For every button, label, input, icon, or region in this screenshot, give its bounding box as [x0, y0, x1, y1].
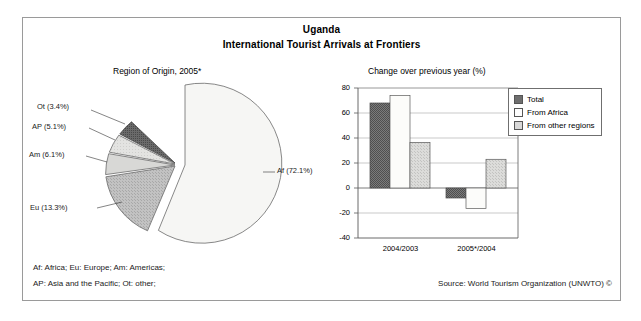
pie-label-ap: AP (5.1%): [32, 122, 66, 131]
legend-item-total: Total: [514, 93, 595, 105]
pie-leader-ap: [89, 128, 115, 140]
pie-chart: Ot (3.4%) AP (5.1%) Am (6.1%) Eu (13.3%)…: [27, 80, 327, 250]
xtick-label-2005-2004: 2005*/2004: [444, 244, 509, 253]
pie-chart-svg: [27, 80, 327, 250]
pie-leader-am: [86, 156, 107, 162]
legend-label-from-other-regions: From other regions: [527, 121, 595, 130]
legend-label-from-africa: From Africa: [527, 108, 568, 117]
legend-swatch-from-africa: [514, 108, 523, 117]
bar-chart-legend: Total From Africa From other regions: [508, 88, 602, 136]
legend-swatch-total: [514, 95, 523, 104]
ytick-label-40: 40: [328, 133, 350, 142]
page-title: Uganda: [23, 24, 620, 35]
figure-frame: Uganda International Tourist Arrivals at…: [22, 17, 621, 301]
pie-label-am: Am (6.1%): [29, 150, 64, 159]
ytick-label-60: 60: [328, 108, 350, 117]
pie-label-eu: Eu (13.3%): [30, 203, 68, 212]
legend-swatch-from-other-regions: [514, 121, 523, 130]
ytick-label-20: 20: [328, 158, 350, 167]
footnote-abbreviations-line2: AP: Asia and the Pacific; Ot: other;: [33, 279, 156, 288]
source-attribution: Source: World Tourism Organization (UNWT…: [438, 279, 612, 288]
pie-chart-caption: Region of Origin, 2005*: [113, 66, 201, 76]
legend-item-from-africa: From Africa: [514, 106, 595, 118]
legend-item-from-other-regions: From other regions: [514, 119, 595, 131]
page-subtitle: International Tourist Arrivals at Fronti…: [23, 39, 620, 50]
pie-slice-af: [158, 83, 281, 243]
bar-2005-2004-from-other-regions: [486, 159, 506, 188]
bar-2004-2003-total: [370, 103, 390, 188]
pie-label-af: Af (72.1%): [277, 166, 312, 175]
ytick-label-80: 80: [328, 83, 350, 92]
bar-2004-2003-from-africa: [390, 96, 410, 189]
ytick-label-0: 0: [328, 183, 350, 192]
bar-2004-2003-from-other-regions: [410, 142, 430, 188]
legend-label-total: Total: [527, 95, 544, 104]
bar-2005-2004-from-africa: [466, 188, 486, 209]
bar-2005-2004-total: [446, 188, 466, 198]
pie-leader-ot: [91, 110, 125, 124]
ytick-label-minus40: -40: [328, 233, 350, 242]
footnote-abbreviations-line1: Af: Africa; Eu: Europe; Am: Americas;: [33, 263, 165, 272]
xtick-label-2004-2003: 2004/2003: [368, 244, 433, 253]
pie-label-ot: Ot (3.4%): [37, 102, 69, 111]
bar-chart-caption: Change over previous year (%): [368, 66, 486, 76]
bar-chart: 80 60 40 20 0 -20 -40 2004/2003 2005*/20…: [328, 80, 618, 265]
ytick-label-minus20: -20: [328, 208, 350, 217]
